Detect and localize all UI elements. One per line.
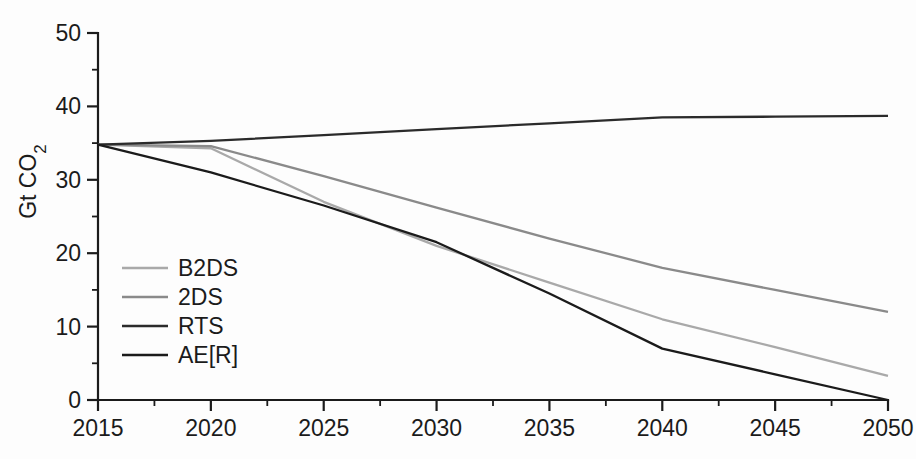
y-axis-tick-label: 50 <box>55 20 81 46</box>
x-axis-tick-label: 2015 <box>72 415 123 441</box>
y-axis-tick-label: 30 <box>55 167 81 193</box>
x-axis-tick-label: 2035 <box>524 415 575 441</box>
x-axis-tick-label: 2030 <box>411 415 462 441</box>
legend-label-2ds: 2DS <box>178 284 223 310</box>
x-axis-tick-label: 2025 <box>298 415 349 441</box>
legend-label-rts: RTS <box>178 313 224 339</box>
chart-page: 01020304050 2015202020252030203520402045… <box>0 0 916 459</box>
x-axis-tick-label: 2020 <box>185 415 236 441</box>
chart-background <box>0 0 916 459</box>
x-axis-tick-label: 2045 <box>750 415 801 441</box>
y-axis-tick-label: 10 <box>55 314 81 340</box>
co2-emissions-line-chart: 01020304050 2015202020252030203520402045… <box>0 0 916 459</box>
legend-label-aer: AE[R] <box>178 342 238 368</box>
y-axis-tick-label: 40 <box>55 93 81 119</box>
x-axis-tick-label: 2050 <box>862 415 913 441</box>
y-axis-tick-label: 20 <box>55 240 81 266</box>
x-axis-tick-label: 2040 <box>637 415 688 441</box>
legend-label-b2ds: B2DS <box>178 255 238 281</box>
y-axis-tick-label: 0 <box>68 387 81 413</box>
